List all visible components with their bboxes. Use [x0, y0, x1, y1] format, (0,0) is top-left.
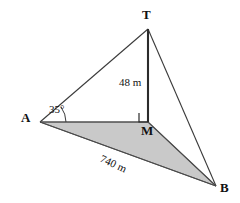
angle-measurement-label: 35°	[49, 104, 64, 115]
geometry-diagram: T A M B 48 m 740 m 35°	[0, 0, 240, 203]
right-angle-marker-icon	[139, 113, 148, 122]
vertex-label-t: T	[142, 8, 151, 21]
height-measurement-label: 48 m	[119, 77, 141, 88]
vertex-label-m: M	[141, 124, 153, 137]
vertex-label-a: A	[21, 111, 30, 124]
vertex-label-b: B	[220, 181, 229, 194]
